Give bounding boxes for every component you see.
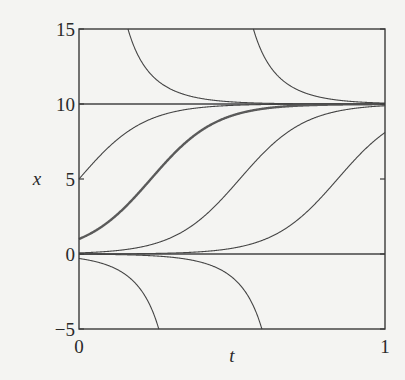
y-tick-label: −5 [55,319,75,340]
y-tick-label: 0 [66,244,76,265]
x-tick-label: 0 [74,336,84,357]
solution-curve [79,259,159,330]
y-tick-label: 15 [56,19,75,40]
x-axis-label: t [229,345,235,366]
y-tick-label: 5 [66,169,76,190]
x-tick-label: 1 [380,336,390,357]
solution-curve [79,106,385,253]
solution-curve [79,133,385,254]
phase-line-chart: −5051015 01 x t [0,0,405,380]
plot-frame [79,29,385,329]
y-tick-label: 10 [56,94,75,115]
solution-curve [79,104,385,239]
solution-curve [253,29,385,103]
y-axis-label: x [32,168,42,189]
y-tick-labels: −5051015 [55,19,75,340]
solution-curves [79,29,385,329]
axis-ticks [79,29,385,329]
